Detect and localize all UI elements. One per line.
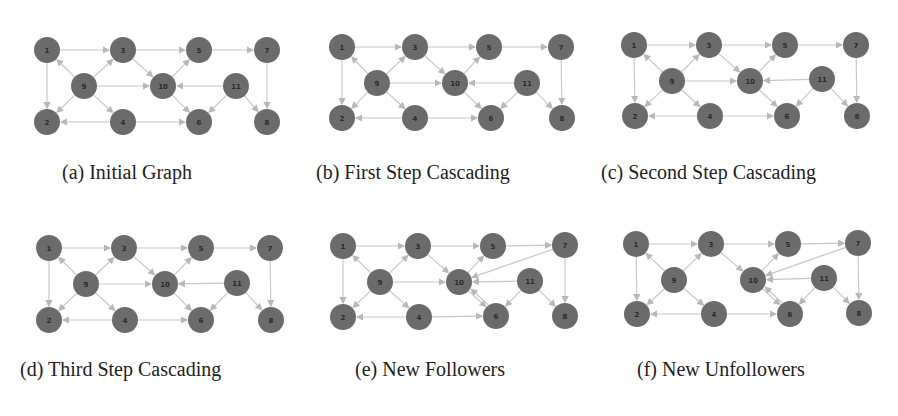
node-1: 1: [623, 231, 649, 257]
node-label: 3: [709, 241, 714, 249]
node-8: 8: [846, 300, 872, 326]
node-label: 9: [672, 277, 677, 285]
edge-11-6: [800, 287, 815, 303]
edge-11-8: [833, 287, 849, 303]
node-label: 6: [788, 311, 793, 319]
node-label: 2: [635, 311, 640, 319]
node-7: 7: [845, 230, 871, 256]
node-label: 11: [819, 275, 829, 283]
node-6: 6: [777, 301, 803, 327]
node-9: 9: [661, 267, 687, 293]
edge-9-4: [684, 288, 703, 305]
node-4: 4: [701, 301, 727, 327]
edge-10-6: [763, 289, 780, 305]
edge-5-7: [801, 243, 844, 244]
edge-1-2: [636, 257, 637, 300]
edge-9-1: [646, 254, 664, 271]
node-label: 5: [786, 241, 791, 249]
node-label: 1: [634, 241, 639, 249]
graph-f: 1357910112468: [0, 0, 898, 416]
node-label: 10: [748, 277, 758, 285]
edge-7-8: [858, 256, 859, 299]
node-label: 7: [856, 240, 861, 248]
edge-10-5: [762, 254, 778, 271]
node-3: 3: [698, 231, 724, 257]
node-10: 10: [740, 267, 766, 293]
node-5: 5: [775, 231, 801, 257]
caption-f: (f) New Unfollowers: [637, 358, 805, 381]
edge-3-10: [721, 252, 743, 270]
node-11: 11: [811, 265, 837, 291]
edge-11-10: [767, 278, 811, 279]
node-2: 2: [624, 301, 650, 327]
node-label: 4: [712, 311, 717, 319]
edge-9-2: [647, 289, 664, 305]
edge-6-10: [765, 287, 782, 303]
edge-9-3: [683, 254, 701, 271]
node-label: 8: [857, 310, 862, 318]
